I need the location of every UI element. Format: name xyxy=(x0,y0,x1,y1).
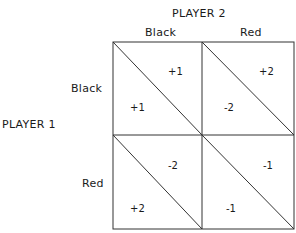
player1-label: PLAYER 1 xyxy=(2,118,56,131)
payoff-bb-player2: +1 xyxy=(168,66,183,77)
player2-label: PLAYER 2 xyxy=(172,7,226,20)
row-header-red: Red xyxy=(82,177,104,190)
payoff-rb-player2: -2 xyxy=(168,160,178,171)
row-header-black: Black xyxy=(71,82,102,95)
cell-diagonal-rr xyxy=(202,135,294,229)
payoff-br-player2: +2 xyxy=(259,66,274,77)
column-header-red: Red xyxy=(240,26,262,39)
payoff-rr-player2: -1 xyxy=(263,160,273,171)
payoff-bb-player1: +1 xyxy=(130,102,145,113)
cell-diagonal-bb xyxy=(113,42,202,135)
payoff-br-player1: -2 xyxy=(224,102,234,113)
cell-diagonal-br xyxy=(202,42,294,135)
payoff-rr-player1: -1 xyxy=(226,203,236,214)
payoff-rb-player1: +2 xyxy=(130,203,145,214)
cell-diagonal-rb xyxy=(113,135,202,229)
column-header-black: Black xyxy=(145,26,176,39)
